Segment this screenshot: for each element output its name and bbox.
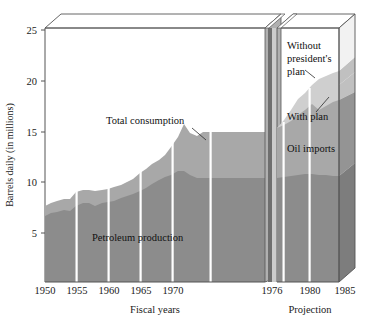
annotation-with-plan: With plan — [287, 111, 329, 122]
divider-1965 — [140, 166, 142, 282]
x-tick-label-1955: 1955 — [67, 285, 88, 296]
divider-1955 — [76, 185, 78, 282]
annotation-without-plan-line1: Without — [287, 40, 321, 51]
right-face-production — [339, 163, 355, 282]
x-axis-title-fiscal-years: Fiscal years — [130, 304, 180, 315]
annotation-without-plan-line3: plan — [287, 66, 306, 77]
petroleum-area-chart: 25 20 15 10 5 Barrels daily (in millions… — [0, 0, 377, 325]
area-projection-production — [277, 174, 339, 282]
divider-1974 — [210, 130, 212, 282]
y-tick-label-10: 10 — [27, 177, 38, 188]
x-tick-label-1980: 1980 — [300, 285, 321, 296]
chart-svg: 25 20 15 10 5 Barrels daily (in millions… — [0, 0, 377, 325]
divider-1970 — [172, 140, 174, 282]
y-axis-title: Barrels daily (in millions) — [4, 103, 16, 207]
break-wall-highlight — [272, 28, 277, 282]
x-axis-title-projection: Projection — [288, 304, 332, 315]
box-top-face-historic — [45, 14, 281, 28]
annotation-without-plan-line2: president's — [287, 53, 331, 64]
x-tick-label-1960: 1960 — [99, 285, 120, 296]
y-tick-label-15: 15 — [27, 127, 38, 138]
annotation-oil-imports: Oil imports — [287, 143, 335, 154]
divider-1977 — [283, 122, 285, 282]
y-tick-label-5: 5 — [32, 228, 37, 239]
annotation-total-consumption: Total consumption — [106, 115, 185, 126]
x-tick-label-1965: 1965 — [131, 285, 152, 296]
break-wall-shadow — [268, 28, 272, 282]
right-face-with-plan — [339, 92, 355, 176]
x-tick-label-1950: 1950 — [35, 285, 56, 296]
box-right-depth-face — [339, 14, 355, 282]
y-tick-label-20: 20 — [27, 76, 38, 87]
historic-areas-extend — [203, 132, 267, 282]
y-tick-label-25: 25 — [27, 25, 38, 36]
area-production-tail — [203, 178, 267, 282]
x-tick-label-1985: 1985 — [335, 285, 356, 296]
annotation-petroleum-production: Petroleum production — [92, 232, 184, 243]
x-tick-label-1970: 1970 — [163, 285, 184, 296]
x-tick-label-1976: 1976 — [262, 285, 283, 296]
